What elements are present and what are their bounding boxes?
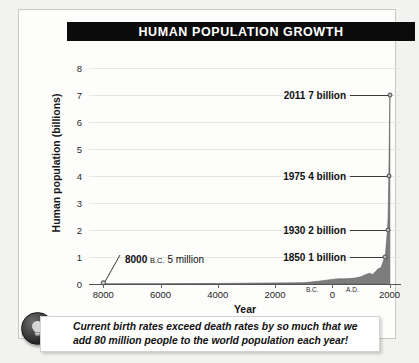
annotation-marker-dot <box>387 92 392 97</box>
y-axis-tick-label: 6 <box>77 116 82 127</box>
y-axis-tick-label: 5 <box>77 143 82 154</box>
y-axis-tick-label: 1 <box>77 251 82 262</box>
x-axis-tick-label: 2000 <box>264 289 285 300</box>
x-axis-tick-label: 0 <box>330 289 335 300</box>
y-axis-tick-label: 2 <box>77 224 82 235</box>
y-axis-tick-label: 7 <box>77 89 82 100</box>
annotation-8000bc-era: B.C. <box>150 256 165 265</box>
annotation-marker-dot <box>385 227 390 232</box>
y-axis-title: Human population (billions) <box>50 63 62 263</box>
y-axis-tick-label: 0 <box>77 279 82 290</box>
annotation-leader-line <box>350 176 389 177</box>
y-axis-tick-label: 4 <box>77 170 82 181</box>
population-area-curve <box>89 54 401 284</box>
annotation-8000bc: 8000 B.C. 5 million <box>125 254 204 265</box>
caption-text: Current birth rates exceed death rates b… <box>73 320 371 347</box>
x-axis-tick-label: 8000 <box>93 289 114 300</box>
y-axis-tick-label: 8 <box>77 62 82 73</box>
annotation-leader-line <box>350 257 385 258</box>
y-axis-tick-label: 3 <box>77 197 82 208</box>
x-axis-tick-mark <box>332 284 333 288</box>
annotation-1930: 1930 2 billion <box>262 224 346 235</box>
x-axis-line <box>89 284 401 285</box>
x-axis-tick-mark <box>161 284 162 288</box>
annotation-2011: 2011 7 billion <box>262 89 346 100</box>
caption-box: Current birth rates exceed death rates b… <box>40 316 380 352</box>
annotation-leader-line <box>350 230 388 231</box>
annotation-marker-dot <box>386 173 391 178</box>
x-axis-tick-label: 4000 <box>207 289 228 300</box>
annotation-1850: 1850 1 billion <box>262 251 346 262</box>
x-axis-tick-mark <box>218 284 219 288</box>
x-axis-tick-mark <box>275 284 276 288</box>
x-axis-title: Year <box>89 303 401 315</box>
x-axis-tick-mark <box>390 284 391 288</box>
chart-title-bar: HUMAN POPULATION GROWTH <box>67 22 415 41</box>
x-axis-tick-label: 6000 <box>150 289 171 300</box>
era-label: B.C. <box>306 286 319 293</box>
chart-title: HUMAN POPULATION GROWTH <box>138 25 343 39</box>
annotation-marker-dot <box>383 254 388 259</box>
plot-area: 012345678 <box>89 54 401 284</box>
x-axis-tick-label: 2000 <box>379 289 400 300</box>
era-label: A.D. <box>346 286 359 293</box>
annotation-1975: 1975 4 billion <box>262 170 346 181</box>
annotation-8000bc-year: 8000 <box>125 254 147 265</box>
x-axis-tick-mark <box>103 284 104 288</box>
figure-card: HUMAN POPULATION GROWTH Human population… <box>18 9 396 339</box>
annotation-leader-line <box>350 95 390 96</box>
annotation-8000bc-amount: 5 million <box>167 254 204 265</box>
